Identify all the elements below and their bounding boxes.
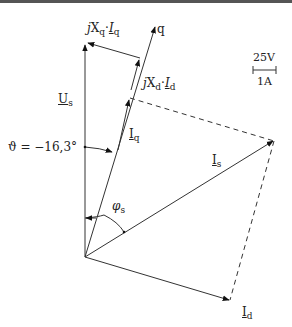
label-id: Id: [242, 306, 253, 318]
dashed-is-id: [230, 141, 274, 300]
phasor-diagram: [0, 0, 292, 327]
jxd-id-phasor: [131, 60, 139, 90]
dashed-iq-is: [130, 98, 274, 141]
label-scale-current: 1A: [257, 76, 272, 87]
label-scale-voltage: 25V: [253, 52, 275, 63]
label-is: Is: [212, 154, 221, 166]
label-phi: φs: [112, 200, 125, 212]
iq-phasor: [118, 100, 129, 150]
label-iq: Iq: [129, 128, 140, 140]
label-jxq-iq: jXq·Iq: [87, 22, 119, 34]
label-us: Us: [58, 93, 73, 105]
jxq-iq-phasor: [88, 43, 140, 58]
theta-arc: [85, 147, 112, 152]
label-q-axis: q: [157, 23, 165, 35]
label-jxd-id: jXd·Id: [143, 77, 175, 89]
id-phasor: [85, 257, 229, 300]
label-theta: ϑ = −16,3°: [8, 141, 77, 153]
